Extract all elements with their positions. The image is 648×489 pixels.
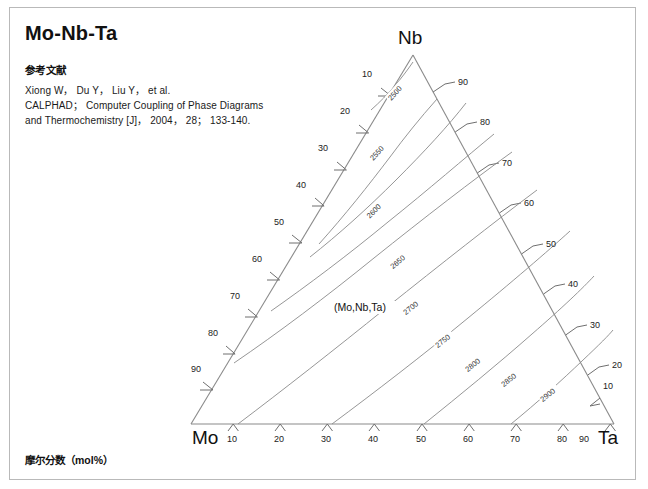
left-tick-label-70: 70: [230, 291, 240, 301]
vertex-label-nb: Nb: [398, 27, 422, 48]
bottom-tick-label-10: 10: [227, 434, 237, 444]
axis-right-nb-ta: [413, 55, 614, 424]
contour-2900: [511, 330, 613, 424]
bottom-tick-label-20: 20: [274, 434, 284, 444]
right-tick-label-40: 40: [568, 279, 578, 289]
right-tick-label-30: 30: [590, 320, 600, 330]
left-tick-label-20: 20: [340, 106, 350, 116]
left-tick-labels: 10 20 30 40 50 60 70 80 90: [191, 69, 372, 374]
bottom-ticks: [228, 424, 616, 431]
bottom-tick-label-60: 60: [463, 434, 473, 444]
right-tick-label-50: 50: [546, 239, 556, 249]
contour-2650: [271, 134, 494, 311]
phase-field-label-group: (Mo,Nb,Ta): [333, 301, 399, 314]
left-tick-label-10: 10: [362, 69, 372, 79]
right-tick-bars: [445, 82, 609, 406]
page-root: Mo-Nb-Ta 参考文献 Xiong W， Du Y， Liu Y， et a…: [0, 0, 648, 489]
bottom-tick-label-40: 40: [368, 434, 378, 444]
contour-2800: [332, 231, 570, 424]
bottom-tick-label-80: 80: [557, 434, 567, 444]
ternary-diagram: Nb Mo Ta 10 20 30 40 50 60 70 80 90 10 2…: [0, 0, 648, 489]
phase-field-label: (Mo,Nb,Ta): [334, 301, 386, 313]
right-tick-label-90: 90: [458, 77, 468, 87]
right-tick-label-80: 80: [480, 117, 490, 127]
bottom-tick-label-50: 50: [416, 434, 426, 444]
left-tick-label-30: 30: [318, 143, 328, 153]
right-tick-label-10: 10: [603, 381, 613, 391]
left-tick-label-90: 90: [191, 364, 201, 374]
right-tick-label-60: 60: [524, 198, 534, 208]
vertex-label-mo: Mo: [192, 427, 218, 448]
axis-left-mo-nb: [191, 55, 413, 424]
contour-2850: [424, 276, 594, 424]
left-tick-label-80: 80: [208, 328, 218, 338]
contour-2700: [234, 152, 512, 363]
right-tick-label-20: 20: [612, 360, 622, 370]
contour-2600: [310, 103, 466, 257]
bottom-tick-label-90: 90: [579, 434, 589, 444]
right-tick-labels: 90 80 70 60 50 40 30 20 10: [458, 77, 622, 391]
bottom-tick-label-30: 30: [321, 434, 331, 444]
left-tick-label-50: 50: [274, 217, 284, 227]
right-tick-label-70: 70: [502, 158, 512, 168]
bottom-tick-label-70: 70: [510, 434, 520, 444]
bottom-tick-labels: 10 20 30 40 50 60 70 80 90: [227, 434, 589, 444]
left-tick-label-40: 40: [296, 180, 306, 190]
left-tick-label-60: 60: [252, 254, 262, 264]
vertex-label-ta: Ta: [598, 427, 619, 448]
